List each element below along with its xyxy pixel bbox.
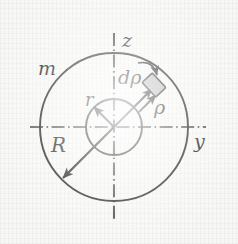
label-thickness-drho: dρ: [118, 66, 142, 88]
R-arrow: [63, 127, 114, 178]
d-rho-arrow-upper: [134, 89, 152, 107]
ring-element: [142, 73, 166, 97]
label-outer-radius-R: R: [50, 133, 66, 157]
annulus-diagram: z y m R r dρ ρ: [0, 0, 238, 244]
label-radial-rho: ρ: [153, 96, 166, 118]
r-arrow: [94, 107, 114, 127]
axis-group: [30, 33, 206, 219]
label-axis-z: z: [121, 29, 133, 51]
figure-canvas: z y m R r dρ ρ: [0, 0, 238, 244]
label-inner-radius-r: r: [85, 89, 95, 110]
label-axis-y: y: [193, 130, 205, 152]
label-mass-m: m: [38, 57, 56, 79]
